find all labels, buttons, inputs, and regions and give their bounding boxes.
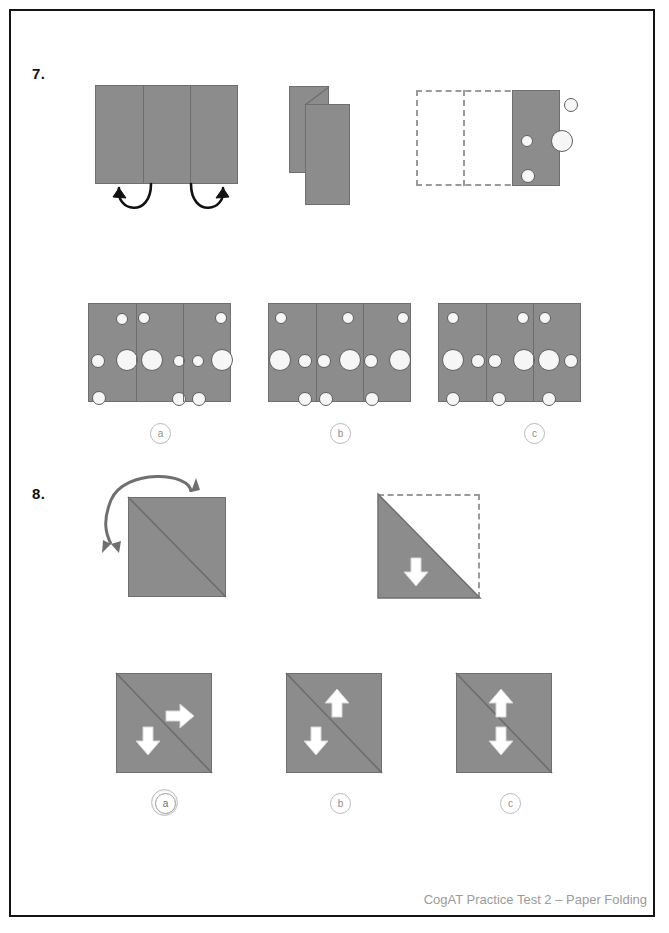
hole (521, 169, 535, 183)
option-c-label[interactable]: c (524, 423, 545, 444)
option-b-crease-left (316, 303, 317, 402)
hole (397, 312, 409, 324)
hole (539, 312, 551, 324)
hole (138, 312, 150, 324)
hole (488, 354, 502, 368)
option-b-content (286, 673, 382, 773)
option-b-crease-right (363, 303, 364, 402)
question-7-number: 7. (32, 65, 45, 82)
hole (365, 392, 379, 406)
hole (564, 354, 578, 368)
option-a-label[interactable]: a (155, 793, 176, 814)
option-a-crease-left (136, 303, 137, 402)
hole (521, 135, 533, 147)
hole (517, 312, 529, 324)
option-c-label[interactable]: c (500, 793, 521, 814)
worksheet-page: 7. a (0, 0, 669, 933)
hole (91, 354, 105, 368)
unfolded-sheet (95, 85, 238, 184)
hole (192, 392, 206, 406)
arrow-down-cutout (136, 727, 160, 755)
arrow-up-cutout (325, 689, 349, 717)
hole (298, 354, 312, 368)
hole (564, 98, 578, 112)
hole (364, 354, 378, 368)
hole (317, 354, 331, 368)
hole (298, 392, 312, 406)
crease-right (190, 85, 191, 184)
fold-crease-mark (289, 86, 353, 126)
arrow-right-cutout (166, 704, 194, 728)
hole (215, 312, 227, 324)
option-c-content (456, 673, 552, 773)
arrow-down-cutout (304, 727, 328, 755)
hole (492, 392, 506, 406)
option-a-crease-right (183, 303, 184, 402)
footer-text: CogAT Practice Test 2 – Paper Folding (424, 892, 647, 907)
option-b-sheet[interactable] (268, 303, 411, 402)
crease-left (143, 85, 144, 184)
hole (211, 349, 233, 371)
fold-arrows (95, 178, 245, 220)
hole (116, 313, 128, 325)
hole (141, 349, 163, 371)
hole (342, 312, 354, 324)
option-a-label[interactable]: a (150, 423, 171, 444)
hole (92, 391, 106, 405)
option-c-crease-right (533, 303, 534, 402)
option-c-sheet[interactable] (438, 303, 581, 402)
unfold-outline-crease (463, 90, 465, 186)
hole (442, 349, 464, 371)
option-a-content (116, 673, 212, 773)
hole (339, 349, 361, 371)
hole (275, 312, 287, 324)
question-8-number: 8. (32, 485, 45, 502)
punched-panel (512, 90, 560, 186)
hole (513, 349, 535, 371)
folded-triangle (378, 494, 480, 598)
arrow-up-cutout (489, 689, 513, 717)
hole (542, 392, 556, 406)
hole (446, 392, 460, 406)
option-a-label-wrap[interactable]: a (155, 793, 176, 814)
option-c-crease-left (486, 303, 487, 402)
hole (447, 312, 459, 324)
hole (389, 349, 411, 371)
hole (538, 349, 560, 371)
hole (551, 130, 573, 152)
option-a-sheet[interactable] (88, 303, 231, 402)
hole (471, 354, 485, 368)
hole (319, 392, 333, 406)
option-b-label[interactable]: b (330, 793, 351, 814)
option-b-label[interactable]: b (330, 423, 351, 444)
fold-arrow-diagonal (95, 470, 205, 565)
hole (269, 349, 291, 371)
arrow-down-cutout (489, 727, 513, 755)
hole (192, 355, 204, 367)
hole (116, 349, 138, 371)
